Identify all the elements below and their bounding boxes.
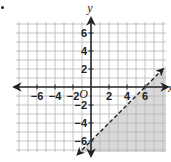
x-tick-label: 6 [142, 90, 148, 102]
y-tick-label: 6 [81, 27, 87, 39]
x-tick-label: 4 [124, 90, 131, 102]
coordinate-plane: −6−4−2246642−2−4−6Oxy [0, 0, 171, 162]
x-axis-label: x [167, 81, 171, 95]
y-tick-label: −4 [74, 117, 87, 129]
x-tick-label: 2 [106, 90, 112, 102]
y-tick-label: 2 [81, 63, 87, 75]
y-tick-label: 4 [81, 45, 88, 57]
origin-label: O [79, 87, 88, 101]
y-tick-label: −6 [74, 135, 87, 147]
x-tick-label: −4 [49, 90, 62, 102]
x-tick-label: −6 [31, 90, 44, 102]
y-axis-label: y [86, 1, 93, 15]
